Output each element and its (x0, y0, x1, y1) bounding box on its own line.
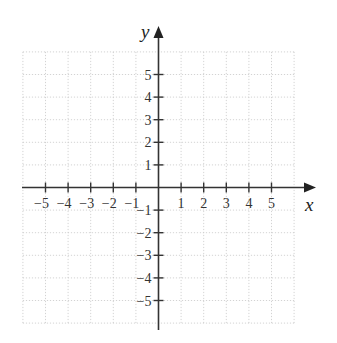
x-tick-label: 3 (223, 196, 230, 211)
y-tick-label: −4 (137, 271, 152, 286)
y-tick-label: 2 (145, 135, 152, 150)
y-tick-label: 5 (145, 68, 152, 83)
y-tick-label: 1 (145, 158, 152, 173)
y-tick-label: −5 (137, 294, 152, 309)
x-tick-label: −5 (34, 196, 49, 211)
coordinate-plane: −5−4−3−2−112345 54321−1−2−3−4−5 x y (0, 0, 337, 343)
y-axis-arrow-icon (154, 26, 164, 38)
x-tick-label: 2 (200, 196, 207, 211)
y-tick-label: −1 (137, 203, 152, 218)
y-tick-label: 4 (145, 90, 152, 105)
y-tick-label: −3 (137, 248, 152, 263)
y-tick-label: −2 (137, 226, 152, 241)
y-axis-label: y (139, 21, 150, 42)
x-tick-label: 1 (178, 196, 185, 211)
x-tick-label: 4 (245, 196, 252, 211)
x-tick-label: 5 (268, 196, 275, 211)
x-tick-label: −4 (57, 196, 72, 211)
x-tick-label: −2 (102, 196, 117, 211)
y-tick-label: 3 (145, 113, 152, 128)
x-axis-label: x (304, 194, 314, 215)
x-axis-arrow-icon (304, 183, 316, 193)
x-tick-label: −3 (79, 196, 94, 211)
